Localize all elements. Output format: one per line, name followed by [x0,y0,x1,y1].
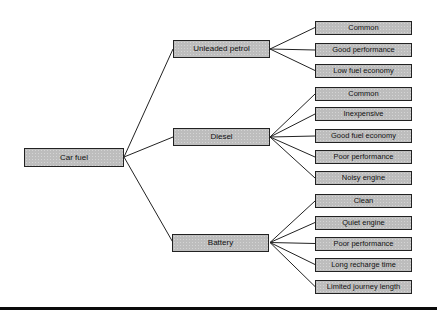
bottom-rule-divider [0,307,437,310]
leaf-good-performance: Good performance [315,43,412,57]
node-diesel: Diesel [173,128,270,146]
leaf-clean: Clean [315,194,412,208]
leaf-poor-performance-battery: Poor performance [315,237,412,251]
leaf-long-recharge-time: Long recharge time [315,258,412,272]
leaf-poor-performance-diesel: Poor performance [315,150,412,164]
node-unleaded-petrol: Unleaded petrol [173,40,270,58]
leaf-noisy-engine: Noisy engine [315,171,412,185]
leaf-common-petrol: Common [315,21,412,35]
leaf-quiet-engine: Quiet engine [315,216,412,230]
leaf-low-fuel-economy: Low fuel economy [315,64,412,78]
leaf-inexpensive: Inexpensive [315,107,412,121]
node-battery: Battery [172,234,269,252]
leaf-good-fuel-economy: Good fuel economy [315,129,412,143]
leaf-common-diesel: Common [315,87,412,101]
leaf-limited-journey-length: Limited journey length [315,280,412,294]
node-car-fuel: Car fuel [24,148,124,167]
diagram-canvas: Car fuel Unleaded petrol Diesel Battery … [0,0,437,317]
